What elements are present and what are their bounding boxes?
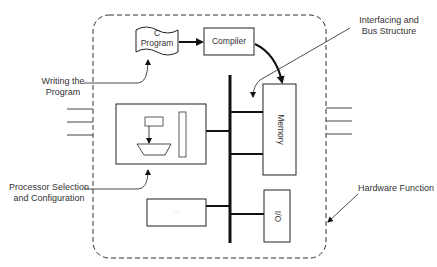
external-lines-right	[326, 108, 352, 134]
c-program-line1: C	[136, 28, 178, 38]
c-program-label: C Program	[136, 28, 178, 48]
io-label: I/O	[272, 202, 283, 232]
processor-annotation: Processor Selection and Configuration	[8, 182, 90, 204]
memory-label: Memory	[275, 104, 286, 156]
writing-program-line1: Writing the	[38, 76, 88, 87]
writing-program-leader	[84, 60, 148, 83]
interfacing-line1: Interfacing and	[349, 15, 429, 26]
processor-line2: and Configuration	[8, 193, 90, 204]
writing-program-annotation: Writing the Program	[38, 76, 88, 98]
interfacing-line2: Bus Structure	[349, 26, 429, 37]
processor-regfile	[179, 112, 186, 157]
writing-program-line2: Program	[38, 87, 88, 98]
external-lines-left	[67, 109, 93, 135]
compiler-label: Compiler	[204, 36, 254, 47]
other-block-label: ...	[147, 206, 206, 217]
hardware-leader	[328, 194, 358, 222]
hardware-annotation: Hardware Function	[358, 183, 434, 194]
processor-leader	[84, 170, 148, 189]
c-program-line2: Program	[136, 38, 178, 48]
processor-register	[145, 117, 163, 126]
arrow-compiler-to-memory	[255, 44, 282, 82]
processor-line1: Processor Selection	[8, 182, 90, 193]
interfacing-annotation: Interfacing and Bus Structure	[349, 15, 429, 37]
